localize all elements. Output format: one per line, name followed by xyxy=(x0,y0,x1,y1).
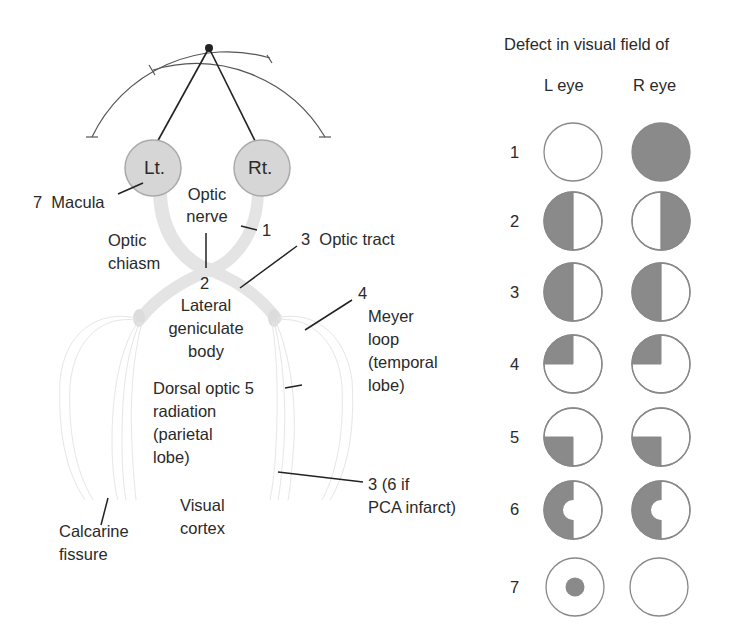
left-eye-label: Lt. xyxy=(144,158,165,178)
calcarine-label-1: Calcarine xyxy=(59,521,129,541)
visual-cortex-label-2: cortex xyxy=(180,518,225,538)
optic-chiasm-label-1: Optic xyxy=(108,230,147,250)
dorsal-radiation-label-4: lobe) xyxy=(153,447,190,467)
row-number-7: 7 xyxy=(510,578,519,597)
meyer-loop-label-1: Meyer xyxy=(368,306,414,326)
row-number-3: 3 xyxy=(510,283,519,302)
row-number-1: 1 xyxy=(510,143,519,162)
meyer-loop-label-3: (temporal xyxy=(368,352,438,372)
visual-field-arcs xyxy=(86,52,331,137)
lgn-label-2: geniculate xyxy=(158,318,254,338)
field-defect-title: Defect in visual field of xyxy=(504,34,669,54)
dorsal-radiation-label-3: (parietal xyxy=(153,424,213,444)
lgn-label-3: body xyxy=(158,341,254,361)
row-number-4: 4 xyxy=(510,355,519,374)
chiasm-number: 2 xyxy=(200,273,209,293)
optic-nerve-number: 1 xyxy=(262,220,271,240)
optic-nerve-label-2: nerve xyxy=(178,206,236,226)
dorsal-radiation-label-2: radiation xyxy=(153,401,216,421)
meyer-loop-label-4: lobe) xyxy=(368,375,405,395)
field-defect-circles xyxy=(544,123,690,616)
calcarine-label-2: fissure xyxy=(59,544,108,564)
column-left-eye: L eye xyxy=(544,75,584,95)
row-number-2: 2 xyxy=(510,212,519,231)
meyer-loop-number: 4 xyxy=(358,283,367,303)
cortex-number-label-2: PCA infarct) xyxy=(368,497,456,517)
right-eye-label: Rt. xyxy=(248,158,272,178)
macula-label: 7 Macula xyxy=(33,192,105,212)
meyer-loop-label-2: loop xyxy=(368,329,399,349)
row-number-6: 6 xyxy=(510,500,519,519)
visual-cortex-label-1: Visual xyxy=(180,495,225,515)
lgn-label-1: Lateral xyxy=(158,295,254,315)
optic-tract-label: 3 Optic tract xyxy=(301,229,395,249)
dorsal-radiation-label-1: Dorsal optic 5 xyxy=(153,378,254,398)
cortex-number-label-1: 3 (6 if xyxy=(368,474,409,494)
row-number-5: 5 xyxy=(510,428,519,447)
column-right-eye: R eye xyxy=(633,75,676,95)
optic-nerve-label-1: Optic xyxy=(178,184,236,204)
optic-chiasm-label-2: chiasm xyxy=(108,253,160,273)
